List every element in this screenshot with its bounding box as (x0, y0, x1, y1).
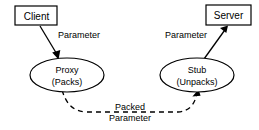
node-stub-label-secondary: (Unpacks) (176, 77, 217, 87)
edge-label-client-to-proxy: Parameter (58, 30, 100, 40)
node-proxy-label-primary: Proxy (55, 65, 79, 75)
edge-label-proxy-to-stub-primary: Packed (115, 102, 145, 112)
diagram-svg: Client Server Proxy (Packs) Stub (Unpack… (0, 0, 259, 130)
edge-client-to-proxy-line (40, 26, 57, 54)
edge-label-stub-to-server: Parameter (165, 30, 207, 40)
node-server[interactable]: Server (206, 5, 251, 25)
diagram-canvas: Client Server Proxy (Packs) Stub (Unpack… (0, 0, 259, 130)
edge-label-proxy-to-stub-secondary: Parameter (109, 113, 151, 123)
node-client[interactable]: Client (15, 6, 57, 25)
node-stub-label-primary: Stub (188, 65, 207, 75)
node-server-label: Server (214, 10, 244, 21)
node-client-label: Client (24, 11, 50, 22)
edge-stub-to-server-line (204, 31, 225, 60)
edge-stub-to-server (204, 26, 228, 60)
node-proxy-label-secondary: (Packs) (52, 77, 83, 87)
node-proxy[interactable]: Proxy (Packs) (30, 58, 104, 92)
node-stub[interactable]: Stub (Unpacks) (160, 58, 234, 92)
